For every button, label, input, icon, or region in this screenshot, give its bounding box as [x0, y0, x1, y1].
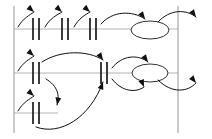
arc-r2-5-head [189, 75, 196, 83]
arc-long-up [36, 82, 103, 129]
node-ellipse-top [131, 21, 169, 39]
arc-r1-2 [45, 12, 62, 27]
arc-r2-2 [42, 53, 103, 62]
arc-r2-5 [158, 80, 196, 90]
arc-r1-3-head [82, 5, 90, 12]
arc-r1-2-head [54, 5, 62, 12]
arc-r3-1-head [26, 89, 34, 96]
diagram-canvas [0, 0, 212, 139]
arc-r2-3-head [141, 54, 148, 62]
arc-r3-1 [18, 96, 34, 111]
arc-r2-1 [18, 56, 34, 71]
node-layer [131, 21, 169, 82]
diagram-svg [0, 0, 212, 139]
arc-down-r2-r3-head [55, 97, 61, 105]
node-ellipse-middle [132, 64, 168, 82]
arc-r1-1 [18, 12, 34, 27]
arc-r1-1-head [26, 5, 34, 12]
arc-r2-2-head [96, 52, 103, 60]
arc-r1-5-head [189, 9, 196, 17]
arc-r1-3 [74, 12, 90, 27]
gate-layer [33, 18, 107, 124]
arc-r1-4-head [138, 11, 145, 19]
arc-r2-1-head [26, 49, 34, 56]
